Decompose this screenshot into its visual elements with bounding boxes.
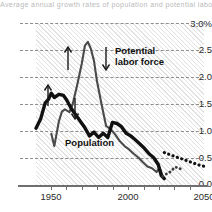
series-population-projection bbox=[164, 153, 203, 167]
x-tick-label-1950: 1950 bbox=[31, 192, 71, 202]
x-tick-1970 bbox=[82, 186, 83, 190]
x-tick-2040 bbox=[190, 186, 191, 190]
arrow-up-left-icon bbox=[42, 83, 54, 107]
series-labor-force-projection bbox=[163, 167, 181, 176]
population-label: Population bbox=[65, 138, 114, 149]
x-tick-2020 bbox=[159, 186, 160, 190]
arrow-up-center-icon bbox=[62, 45, 74, 71]
potential-label-line2: labor force bbox=[115, 56, 164, 67]
arrow-down-center-icon bbox=[100, 46, 112, 72]
chart-container: Average annual growth rates of populatio… bbox=[0, 0, 212, 212]
x-tick-label-2000: 2000 bbox=[108, 192, 148, 202]
potential-label-line1: Potential bbox=[115, 45, 155, 56]
x-tick-1950 bbox=[51, 186, 52, 190]
chart-title: Average annual growth rates of populatio… bbox=[0, 0, 212, 9]
x-tick-1960 bbox=[66, 186, 67, 190]
x-tick-1980 bbox=[97, 186, 98, 190]
x-tick-2010 bbox=[144, 186, 145, 190]
x-tick-2030 bbox=[174, 186, 175, 190]
x-tick-label-2050: 2050 bbox=[184, 192, 212, 202]
x-tick-1990 bbox=[113, 186, 114, 190]
arrow-down-left-icon bbox=[69, 97, 81, 121]
plot-area: Potential labor force Population bbox=[36, 23, 204, 185]
potential-labor-force-label: Potential labor force bbox=[115, 46, 164, 67]
x-tick-2000 bbox=[128, 186, 129, 190]
